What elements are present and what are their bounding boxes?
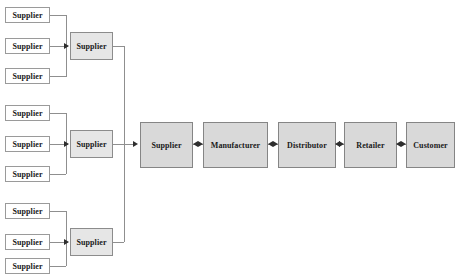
connector-wire bbox=[50, 266, 66, 267]
connector-wire bbox=[50, 174, 66, 175]
arrowhead-icon bbox=[64, 239, 69, 245]
chain-node-customer[interactable]: Customer bbox=[406, 122, 455, 168]
supplier-leaf-box[interactable]: Supplier bbox=[5, 166, 50, 182]
trunk-wire bbox=[113, 144, 124, 145]
supplier-leaf-label: Supplier bbox=[12, 109, 42, 118]
supplier-leaf-label: Supplier bbox=[12, 140, 42, 149]
supplier-aggregator-label: Supplier bbox=[76, 42, 106, 51]
arrowhead-icon bbox=[64, 141, 69, 147]
supplier-leaf-box[interactable]: Supplier bbox=[5, 234, 50, 250]
supplier-leaf-box[interactable]: Supplier bbox=[5, 38, 50, 54]
trunk-wire bbox=[113, 242, 124, 243]
supplier-leaf-label: Supplier bbox=[12, 170, 42, 179]
connector-wire bbox=[50, 76, 66, 77]
supplier-leaf-label: Supplier bbox=[12, 207, 42, 216]
supplier-leaf-box[interactable]: Supplier bbox=[5, 258, 50, 274]
supplier-leaf-box[interactable]: Supplier bbox=[5, 105, 50, 121]
trunk-wire bbox=[113, 46, 124, 47]
supplier-leaf-label: Supplier bbox=[12, 72, 42, 81]
arrowhead-icon bbox=[198, 141, 203, 147]
chain-node-label: Manufacturer bbox=[211, 141, 261, 150]
supplier-leaf-box[interactable]: Supplier bbox=[5, 136, 50, 152]
supplier-leaf-box[interactable]: Supplier bbox=[5, 203, 50, 219]
supplier-leaf-label: Supplier bbox=[12, 262, 42, 271]
arrowhead-icon bbox=[133, 141, 138, 147]
supplier-leaf-box[interactable]: Supplier bbox=[5, 7, 50, 23]
chain-node-label: Retailer bbox=[356, 141, 384, 150]
supply-chain-diagram: Supplier Supplier Supplier Supplier Supp… bbox=[0, 0, 464, 279]
chain-node-manufacturer[interactable]: Manufacturer bbox=[203, 122, 268, 168]
chain-node-retailer[interactable]: Retailer bbox=[344, 122, 397, 168]
supplier-leaf-label: Supplier bbox=[12, 11, 42, 20]
chain-node-distributor[interactable]: Distributor bbox=[278, 122, 336, 168]
chain-node-supplier[interactable]: Supplier bbox=[140, 122, 193, 168]
supplier-aggregator-label: Supplier bbox=[76, 140, 106, 149]
arrowhead-icon bbox=[273, 141, 278, 147]
connector-wire bbox=[50, 113, 66, 114]
supplier-aggregator-label: Supplier bbox=[76, 238, 106, 247]
arrowhead-icon bbox=[401, 141, 406, 147]
supplier-leaf-box[interactable]: Supplier bbox=[5, 68, 50, 84]
chain-node-label: Customer bbox=[413, 141, 448, 150]
supplier-aggregator-box[interactable]: Supplier bbox=[70, 130, 113, 158]
supplier-leaf-label: Supplier bbox=[12, 238, 42, 247]
supplier-leaf-label: Supplier bbox=[12, 42, 42, 51]
arrowhead-icon bbox=[64, 43, 69, 49]
connector-wire bbox=[50, 15, 66, 16]
supplier-aggregator-box[interactable]: Supplier bbox=[70, 228, 113, 256]
supplier-aggregator-box[interactable]: Supplier bbox=[70, 32, 113, 60]
arrowhead-icon bbox=[339, 141, 344, 147]
chain-node-label: Distributor bbox=[287, 141, 327, 150]
connector-wire bbox=[50, 211, 66, 212]
chain-node-label: Supplier bbox=[151, 141, 181, 150]
